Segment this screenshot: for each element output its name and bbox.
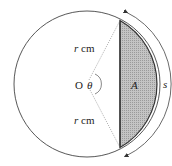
angle-arc <box>95 74 101 94</box>
segment-a-region <box>120 21 157 148</box>
circle-segment-diagram: O θ r cm r cm A s <box>0 0 172 166</box>
radius-label-top: r cm <box>74 42 95 54</box>
radius-unit-bottom: cm <box>78 114 95 126</box>
radius-unit-top: cm <box>78 42 95 54</box>
segment-label: A <box>130 79 138 91</box>
arc-label: s <box>163 78 167 90</box>
angle-label: θ <box>87 79 93 91</box>
radius-label-bottom: r cm <box>74 114 95 126</box>
center-label: O <box>75 79 83 91</box>
